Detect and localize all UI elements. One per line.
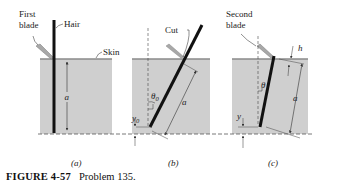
hair-cutting-diagram: a First blade Hair Skin (a) Cut θ0 a y0	[0, 0, 337, 186]
label-cut: Cut	[165, 25, 179, 35]
sublabel-a: (a)	[71, 158, 82, 168]
label-a: a	[293, 93, 298, 103]
label-second: Second	[226, 9, 253, 19]
label-blade: blade	[19, 20, 39, 30]
panel-c: θ h a y Second blade (c)	[226, 9, 308, 168]
second-blade-icon	[257, 44, 274, 58]
problem-reference: Problem 135.	[79, 171, 136, 182]
label-first: First	[19, 9, 36, 19]
h-arrow-top	[291, 46, 293, 58]
label-a: a	[65, 92, 70, 102]
panel-a: a First blade Hair Skin (a)	[19, 9, 120, 168]
figure-caption: FIGURE 4-57Problem 135.	[6, 171, 136, 182]
label-y: y	[236, 111, 241, 121]
sublabel-c: (c)	[268, 158, 278, 168]
label-skin: Skin	[103, 47, 120, 57]
sublabel-b: (b)	[168, 158, 179, 168]
figure-number: FIGURE 4-57	[6, 171, 71, 182]
skin-region	[40, 59, 112, 134]
label-theta: θ	[261, 80, 266, 90]
panel-b: Cut θ0 a y0 (b)	[131, 25, 210, 168]
label-hair: Hair	[64, 19, 80, 29]
label-blade: blade	[226, 20, 246, 30]
cut-blade-icon	[166, 44, 184, 58]
label-h: h	[298, 43, 303, 53]
first-blade-icon	[36, 44, 54, 59]
label-a: a	[182, 97, 187, 107]
